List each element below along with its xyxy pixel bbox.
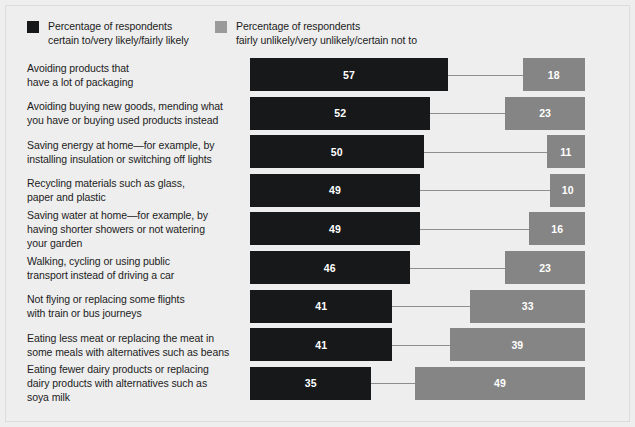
category-label: Recycling materials such as glass,paper … [27, 176, 242, 204]
legend-label-positive: Percentage of respondents certain to/ver… [48, 20, 189, 47]
bar-value-negative: 16 [551, 223, 563, 235]
category-label-line: Saving water at home—for example, by [27, 209, 208, 221]
chart-figure: Percentage of respondents certain to/ver… [0, 0, 635, 427]
bar-value-positive: 35 [305, 377, 317, 389]
legend-label-negative-line1: Percentage of respondents [236, 20, 360, 32]
bar-positive: 52 [250, 97, 430, 130]
chart-row: Not flying or replacing some flightswith… [0, 290, 635, 323]
category-label-line: Not flying or replacing some flights [27, 293, 185, 305]
bar-positive: 41 [250, 290, 392, 323]
legend-item-positive: Percentage of respondents certain to/ver… [27, 20, 189, 47]
bar-negative: 39 [450, 328, 585, 361]
chart-plot-area: Avoiding products thathave a lot of pack… [0, 52, 635, 417]
category-label-line: transport instead of driving a car [27, 269, 174, 281]
chart-row: Avoiding products thathave a lot of pack… [0, 58, 635, 91]
bar-value-negative: 23 [539, 107, 551, 119]
legend-item-negative: Percentage of respondents fairly unlikel… [215, 20, 417, 47]
bar-connector-line [410, 268, 506, 269]
category-label-line: with train or bus journeys [27, 307, 142, 319]
category-label-line: paper and plastic [27, 191, 106, 203]
bar-connector-line [392, 345, 449, 346]
bar-value-positive: 41 [315, 300, 327, 312]
bar-negative: 23 [505, 251, 585, 284]
bar-positive: 49 [250, 174, 420, 207]
bar-positive: 50 [250, 135, 424, 168]
category-label: Not flying or replacing some flightswith… [27, 292, 242, 320]
category-label: Avoiding buying new goods, mending whaty… [27, 99, 242, 127]
legend-swatch-positive-icon [27, 21, 39, 33]
bar-value-negative: 11 [560, 146, 571, 158]
category-label-line: have a lot of packaging [27, 76, 133, 88]
chart-row: Saving energy at home—for example, byins… [0, 135, 635, 168]
chart-row: Walking, cycling or using publictranspor… [0, 251, 635, 284]
bar-negative: 11 [547, 135, 585, 168]
category-label-line: dairy products with alternatives such as [27, 377, 207, 389]
legend-label-negative-line2: fairly unlikely/very unlikely/certain no… [236, 34, 417, 46]
category-label-line: Recycling materials such as glass, [27, 177, 185, 189]
bar-connector-line [424, 152, 547, 153]
bar-value-positive: 41 [315, 339, 327, 351]
category-label: Saving energy at home—for example, byins… [27, 138, 242, 166]
category-label-line: soya milk [27, 391, 70, 403]
bar-negative: 49 [415, 367, 585, 400]
bar-value-positive: 46 [324, 262, 336, 274]
bar-negative: 16 [529, 212, 585, 245]
bar-value-positive: 49 [329, 223, 341, 235]
bar-positive: 49 [250, 212, 420, 245]
bar-connector-line [371, 383, 415, 384]
legend-label-positive-line1: Percentage of respondents [48, 20, 172, 32]
category-label-line: installing insulation or switching off l… [27, 153, 212, 165]
category-label: Avoiding products thathave a lot of pack… [27, 61, 242, 89]
legend-label-positive-line2: certain to/very likely/fairly likely [48, 34, 189, 46]
bar-negative: 10 [550, 174, 585, 207]
bar-value-positive: 50 [331, 146, 343, 158]
legend-label-negative: Percentage of respondents fairly unlikel… [236, 20, 417, 47]
category-label-line: Avoiding products that [27, 62, 129, 74]
bar-positive: 41 [250, 328, 392, 361]
bar-negative: 18 [523, 58, 585, 91]
chart-row: Recycling materials such as glass,paper … [0, 174, 635, 207]
bar-value-negative: 18 [548, 69, 560, 81]
category-label-line: Avoiding buying new goods, mending what [27, 100, 223, 112]
bar-connector-line [392, 306, 470, 307]
bar-positive: 46 [250, 251, 410, 284]
bar-connector-line [420, 229, 529, 230]
chart-row: Eating less meat or replacing the meat i… [0, 328, 635, 361]
chart-row: Avoiding buying new goods, mending whaty… [0, 97, 635, 130]
bar-negative: 33 [470, 290, 585, 323]
bar-value-negative: 39 [511, 339, 523, 351]
category-label: Walking, cycling or using publictranspor… [27, 254, 242, 282]
chart-row: Saving water at home—for example, byhavi… [0, 212, 635, 245]
category-label-line: some meals with alternatives such as bea… [27, 346, 229, 358]
bar-value-positive: 57 [343, 69, 355, 81]
category-label-line: you have or buying used products instead [27, 114, 218, 126]
bar-positive: 57 [250, 58, 448, 91]
bar-connector-line [448, 75, 523, 76]
bar-value-positive: 52 [334, 107, 346, 119]
category-label-line: Saving energy at home—for example, by [27, 139, 214, 151]
bar-value-negative: 49 [494, 377, 506, 389]
bar-negative: 23 [505, 97, 585, 130]
legend-swatch-negative-icon [215, 21, 227, 33]
category-label-line: Walking, cycling or using public [27, 255, 170, 267]
category-label: Saving water at home—for example, byhavi… [27, 208, 242, 250]
chart-legend: Percentage of respondents certain to/ver… [0, 0, 635, 52]
chart-row: Eating fewer dairy products or replacing… [0, 367, 635, 400]
category-label-line: your garden [27, 237, 82, 249]
category-label-line: having shorter showers or not watering [27, 223, 205, 235]
bar-positive: 35 [250, 367, 371, 400]
category-label: Eating fewer dairy products or replacing… [27, 362, 242, 404]
bar-value-negative: 23 [539, 262, 551, 274]
bar-connector-line [430, 113, 505, 114]
category-label: Eating less meat or replacing the meat i… [27, 331, 242, 359]
category-label-line: Eating less meat or replacing the meat i… [27, 332, 214, 344]
bar-connector-line [420, 190, 550, 191]
category-label-line: Eating fewer dairy products or replacing [27, 363, 209, 375]
bar-value-positive: 49 [329, 184, 341, 196]
bar-value-negative: 10 [562, 184, 574, 196]
bar-value-negative: 33 [522, 300, 534, 312]
